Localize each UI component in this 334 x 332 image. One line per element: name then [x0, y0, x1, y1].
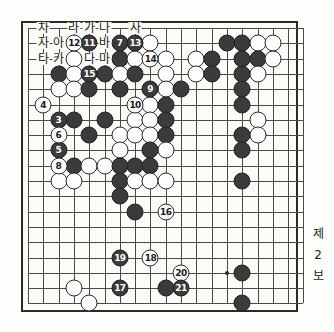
- board-letter-차: 차: [37, 22, 50, 34]
- move-number-label: 12: [68, 39, 79, 48]
- move-number-label: 20: [175, 268, 186, 277]
- move-stone-8[interactable]: 8: [50, 157, 67, 174]
- move-number-label: 15: [84, 69, 95, 78]
- move-stone-16[interactable]: 16: [157, 203, 174, 220]
- move-stone-15[interactable]: 15: [81, 65, 98, 82]
- board-letter-가: 가: [83, 22, 96, 34]
- move-number-label: 6: [55, 131, 61, 140]
- go-diagram-figure: 3456789101112131415161718192021 차라가나사자아바…: [0, 0, 334, 332]
- board-letter-타: 타: [37, 53, 50, 65]
- move-number-label: 4: [40, 100, 46, 109]
- move-stone-14[interactable]: 14: [142, 50, 159, 67]
- board-letter-라: 라: [67, 22, 80, 34]
- move-stone-12[interactable]: 12: [65, 35, 82, 52]
- board-letter-자: 자: [37, 37, 50, 49]
- move-number-label: 3: [55, 115, 61, 124]
- move-number-label: 19: [114, 253, 125, 262]
- move-stone-6[interactable]: 6: [50, 127, 67, 144]
- board-letter-사: 사: [129, 22, 142, 34]
- move-stone-19[interactable]: 19: [111, 249, 128, 266]
- move-number-label: 5: [55, 146, 61, 155]
- caption-char-2: 보: [313, 270, 324, 282]
- move-stone-4[interactable]: 4: [35, 96, 52, 113]
- move-stone-18[interactable]: 18: [142, 249, 159, 266]
- move-number-label: 9: [147, 85, 153, 94]
- board-letter-다: 다: [83, 53, 96, 65]
- move-stone-13[interactable]: 13: [127, 35, 144, 52]
- move-stone-21[interactable]: 21: [173, 280, 190, 297]
- caption-char-1: 2: [314, 249, 322, 261]
- move-number-label: 8: [55, 161, 61, 170]
- move-stone-17[interactable]: 17: [111, 280, 128, 297]
- move-number-label: 16: [160, 207, 171, 216]
- move-number-label: 17: [114, 284, 125, 293]
- move-stone-10[interactable]: 10: [127, 96, 144, 113]
- board-letter-마: 마: [98, 53, 111, 65]
- move-number-label: 18: [145, 253, 156, 262]
- move-stone-11[interactable]: 11: [81, 35, 98, 52]
- diagram-caption: 제 2 보: [305, 228, 331, 282]
- caption-char-0: 제: [313, 228, 324, 240]
- move-number-label: 10: [129, 100, 140, 109]
- move-number-label: 11: [84, 39, 95, 48]
- move-number-label: 14: [145, 54, 156, 63]
- board-letter-카: 카: [52, 53, 65, 65]
- board-letter-아: 아: [52, 37, 65, 49]
- move-number-label: 7: [117, 39, 123, 48]
- board-letter-바: 바: [98, 37, 111, 49]
- move-stone-9[interactable]: 9: [142, 81, 159, 98]
- board-letter-나: 나: [98, 22, 111, 34]
- move-number-label: 13: [129, 39, 140, 48]
- move-number-label: 21: [175, 284, 186, 293]
